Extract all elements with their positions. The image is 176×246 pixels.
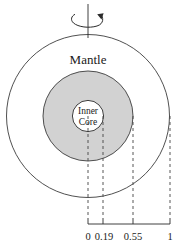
tick-label-055: 0.55 — [124, 231, 142, 242]
tick-label-0: 0 — [85, 231, 90, 242]
inner-core-label-line1: Inner — [78, 106, 99, 116]
figure-canvas: Mantle Inner Core 0 0.19 0.55 1 — [0, 0, 176, 246]
tick-label-1: 1 — [167, 231, 172, 242]
earth-interior-figure: Mantle Inner Core 0 0.19 0.55 1 — [0, 0, 176, 246]
mantle-label: Mantle — [70, 52, 107, 67]
inner-core-label-line2: Core — [79, 117, 97, 127]
tick-label-019: 0.19 — [95, 231, 113, 242]
